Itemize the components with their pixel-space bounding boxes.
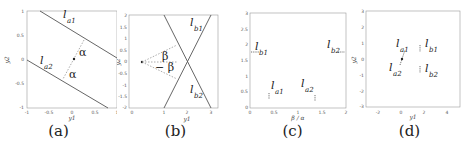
- svg-text:− β: − β: [155, 61, 174, 74]
- svg-text:0.5: 0.5: [17, 33, 24, 38]
- svg-text:a1: a1: [67, 17, 76, 25]
- caption-d: (d): [351, 122, 468, 140]
- svg-text:1: 1: [21, 9, 24, 14]
- caption-a: (a): [0, 122, 117, 140]
- svg-text:0: 0: [131, 110, 134, 115]
- svg-text:α: α: [69, 68, 77, 81]
- svg-text:y1: y1: [67, 114, 75, 122]
- panel-b: 2 1.5 1 0.5 0 -0.5 -1 -1.5 -2 0 1 2 3 y1…: [117, 0, 234, 151]
- svg-text:1: 1: [245, 74, 248, 79]
- svg-text:a2: a2: [305, 86, 314, 94]
- svg-text:a2: a2: [44, 63, 53, 71]
- svg-text:0.5: 0.5: [120, 48, 127, 53]
- svg-text:-0.5: -0.5: [15, 81, 24, 86]
- svg-text:0.5: 0.5: [270, 110, 277, 115]
- svg-text:-2: -2: [360, 89, 365, 94]
- svg-text:-1: -1: [20, 105, 25, 110]
- svg-text:0: 0: [124, 59, 127, 64]
- svg-text:1.5: 1.5: [241, 58, 248, 63]
- svg-text:1.5: 1.5: [318, 110, 325, 115]
- svg-text:b1: b1: [429, 46, 438, 54]
- svg-text:b1: b1: [259, 49, 268, 57]
- caption-b: (b): [117, 122, 234, 140]
- svg-text:-2: -2: [123, 105, 128, 110]
- svg-text:-2: -2: [376, 110, 381, 115]
- svg-text:-3: -3: [360, 104, 365, 109]
- svg-text:4: 4: [446, 110, 449, 115]
- svg-text:y2: y2: [117, 58, 122, 66]
- svg-text:y1: y1: [408, 113, 416, 121]
- svg-text:0: 0: [21, 57, 24, 62]
- svg-text:a1: a1: [275, 88, 284, 96]
- svg-text:3: 3: [210, 110, 213, 115]
- svg-text:b2: b2: [429, 71, 438, 79]
- svg-text:0: 0: [361, 57, 364, 62]
- svg-text:-1: -1: [123, 83, 128, 88]
- svg-text:1: 1: [163, 110, 166, 115]
- svg-text:y2: y2: [351, 56, 358, 64]
- svg-text:2: 2: [345, 110, 348, 115]
- svg-text:-1: -1: [360, 73, 365, 78]
- svg-text:2: 2: [245, 42, 248, 47]
- svg-text:1: 1: [124, 36, 127, 41]
- svg-text:1.5: 1.5: [120, 25, 127, 30]
- panel-c: 3 2.5 2 1.5 1 0.5 0 0 0.5 1 1.5 2 β / α …: [234, 0, 351, 151]
- svg-text:0: 0: [249, 110, 252, 115]
- svg-text:-1.5: -1.5: [118, 94, 127, 99]
- svg-text:a1: a1: [400, 46, 409, 54]
- svg-text:-0.5: -0.5: [45, 110, 54, 115]
- svg-text:0.5: 0.5: [91, 110, 98, 115]
- caption-c: (c): [234, 122, 351, 140]
- svg-text:a2: a2: [393, 70, 402, 78]
- svg-text:3: 3: [361, 9, 364, 14]
- svg-text:b2: b2: [331, 47, 340, 55]
- panel-a: 1 0.5 0 -0.5 -1 -1 -0.5 0 0.5 1 y1 y2 la…: [0, 0, 117, 151]
- svg-text:2: 2: [361, 25, 364, 30]
- svg-text:b1: b1: [194, 25, 203, 33]
- svg-text:-1: -1: [25, 110, 30, 115]
- svg-text:2: 2: [423, 110, 426, 115]
- svg-text:2.5: 2.5: [241, 27, 248, 32]
- svg-text:β / α: β / α: [290, 114, 304, 122]
- svg-text:b2: b2: [194, 92, 203, 100]
- panel-d: 3 2 1 0 -1 -2 -3 -2 0 2 4 y1 y2 la1 lb1 …: [351, 0, 468, 151]
- svg-text:1: 1: [361, 41, 364, 46]
- svg-text:y2: y2: [3, 56, 11, 64]
- svg-text:2: 2: [124, 13, 127, 18]
- svg-text:3: 3: [245, 11, 248, 16]
- svg-text:0: 0: [400, 110, 403, 115]
- svg-text:0.5: 0.5: [241, 89, 248, 94]
- svg-text:-0.5: -0.5: [118, 71, 127, 76]
- svg-text:α: α: [79, 46, 87, 59]
